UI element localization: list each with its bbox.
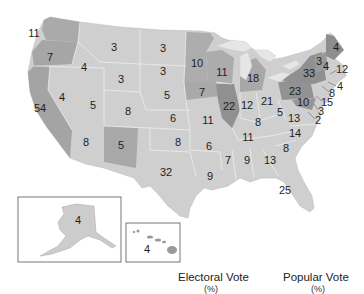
state-label-vt: 3	[316, 56, 322, 67]
state-label-wy: 3	[118, 74, 124, 85]
state-label-ma: 12	[336, 64, 348, 75]
state-label-oh: 21	[261, 96, 273, 107]
state-label-al: 9	[244, 155, 250, 166]
state-label-az: 8	[83, 137, 89, 148]
state-label-nh: 4	[323, 61, 329, 72]
legend-electoral-unit: (%)	[204, 284, 218, 294]
hawaii-inset-frame	[126, 223, 180, 262]
state-label-la: 9	[207, 171, 213, 182]
state-label-il: 22	[223, 101, 235, 112]
state-label-mo: 11	[202, 115, 213, 126]
state-label-md: 10	[297, 97, 309, 108]
state-label-ny: 33	[303, 68, 315, 79]
state-label-sd: 3	[160, 66, 166, 77]
state-label-mn: 10	[191, 58, 203, 69]
state-label-ri: 4	[337, 81, 343, 92]
state-label-wi: 11	[216, 67, 227, 78]
state-label-id: 4	[81, 62, 87, 73]
state-label-dc: 2	[315, 115, 321, 126]
state-label-ca: 54	[34, 103, 46, 114]
state-label-co: 8	[125, 106, 131, 117]
state-label-ut: 5	[90, 100, 96, 111]
state-label-ar: 6	[206, 141, 212, 152]
state-label-ok: 8	[175, 137, 181, 148]
state-label-sc: 8	[283, 143, 289, 154]
state-label-nv: 4	[59, 92, 65, 103]
state-label-me: 4	[333, 42, 339, 53]
state-label-wa: 11	[28, 28, 39, 39]
state-label-nm: 5	[118, 140, 124, 151]
state-label-mi: 18	[247, 73, 259, 84]
state-label-tx: 32	[160, 167, 172, 178]
state-label-ms: 7	[225, 155, 231, 166]
state-label-fl: 25	[279, 185, 291, 196]
legend-electoral-vote: Electoral Vote	[178, 271, 249, 283]
state-label-ky: 8	[255, 117, 261, 128]
state-label-nd: 3	[160, 43, 166, 54]
state-label-ne: 5	[164, 90, 170, 101]
state-label-or: 7	[47, 52, 53, 63]
state-label-wv: 5	[277, 107, 283, 118]
state-label-nc: 14	[289, 128, 301, 139]
legend-popular-unit: (%)	[311, 284, 325, 294]
state-label-ks: 6	[170, 113, 176, 124]
state-label-va: 13	[288, 113, 300, 124]
state-label-ia: 7	[199, 87, 205, 98]
state-OR	[32, 40, 78, 66]
state-label-mt: 3	[111, 42, 117, 53]
state-label-in: 12	[241, 100, 253, 111]
state-label-tn: 11	[242, 132, 253, 143]
state-label-ga: 13	[264, 155, 276, 166]
state-label-hi: 4	[144, 244, 150, 255]
legend-popular-vote: Popular Vote	[283, 271, 349, 283]
state-label-ak: 4	[75, 215, 81, 226]
